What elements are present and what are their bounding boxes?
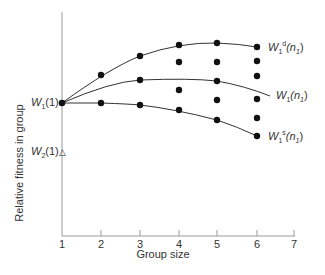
x-tick-2: 2 (98, 238, 104, 250)
argument: (1) (45, 145, 58, 157)
curve-label-w1-d: W1d(n1) (268, 40, 304, 55)
w2-1-label: W2(1)△ (31, 145, 66, 159)
curve-w1 (62, 79, 270, 103)
triangle-marker-icon: △ (59, 147, 66, 157)
x-tick-5: 5 (214, 238, 220, 250)
argument: (1) (45, 96, 58, 108)
curve-w1-d (62, 43, 257, 103)
x-ticks (101, 230, 294, 236)
w-letter: W (31, 145, 41, 157)
argument: (n (290, 89, 300, 101)
curve-w1-s (62, 103, 257, 136)
x-axis-label: Group size (136, 248, 189, 260)
curve-label-w1: W1(n1) (276, 89, 308, 103)
x-tick-7: 7 (291, 238, 297, 250)
argument: (n (286, 41, 296, 53)
argument-close: ) (304, 89, 308, 101)
argument-close: ) (299, 130, 303, 142)
curve-label-w1-s: W1s(n1) (268, 129, 303, 144)
subscript: 1 (278, 137, 282, 144)
argument-close: ) (300, 41, 304, 53)
x-tick-1: 1 (59, 238, 65, 250)
subscript: 1 (278, 48, 282, 55)
y-axis-label: Relative fitness in group (13, 104, 25, 221)
w-letter: W (268, 130, 278, 142)
w1-1-label: W1(1) (31, 96, 59, 110)
w-letter: W (268, 41, 278, 53)
w-letter: W (276, 89, 286, 101)
argument: (n (286, 130, 296, 142)
x-tick-6: 6 (254, 238, 260, 250)
w-letter: W (31, 96, 41, 108)
